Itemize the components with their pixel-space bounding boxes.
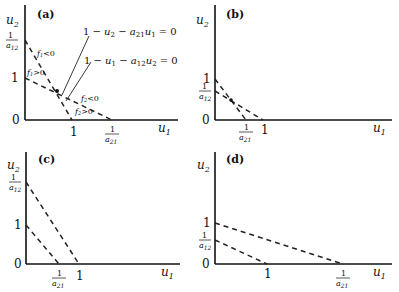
panel-c-xtick-1-over-a21: 1 a21 xyxy=(52,269,66,289)
panel-d: (d) u2 u1 1 1 a12 0 1 1 a21 xyxy=(197,152,392,289)
nullcline-diagram: (a) u2 u1 1 a12 1 0 1 1 a21 1 − u2 − a21… xyxy=(0,0,399,292)
panel-d-label: (d) xyxy=(226,153,244,166)
svg-text:1: 1 xyxy=(8,31,13,40)
panel-c-ytick-1: 1 xyxy=(14,218,22,232)
panel-d-ytick-1-over-a12: 1 a12 xyxy=(199,231,212,251)
panel-c-nullcline-u2 xyxy=(26,182,79,264)
svg-text:1: 1 xyxy=(202,231,207,240)
panel-a-f2-neg: f2<0 xyxy=(80,94,99,103)
panel-b-u1-label: u1 xyxy=(373,121,386,137)
panel-a-eq-nullcline-1: 1 − u1 − a12u2 = 0 xyxy=(84,55,178,68)
panel-d-xtick-1: 1 xyxy=(264,267,272,281)
panel-d-ytick-0: 0 xyxy=(202,257,210,271)
panel-c-ytick-1-over-a12: 1 a12 xyxy=(9,173,22,193)
panel-b-ytick-0: 0 xyxy=(202,113,210,127)
panel-a-u2-label: u2 xyxy=(6,13,19,29)
panel-a: (a) u2 u1 1 a12 1 0 1 1 a21 1 − u2 − a21… xyxy=(6,5,178,145)
panel-a-xtick-1: 1 xyxy=(70,125,78,139)
panel-c: (c) u2 u1 1 a12 1 0 1 a21 1 xyxy=(7,152,180,289)
panel-d-nullcline-u1 xyxy=(215,223,343,264)
panel-b-xtick-1: 1 xyxy=(261,123,269,137)
svg-text:a12: a12 xyxy=(199,241,212,251)
panel-a-f1-pos: f1>0 xyxy=(26,68,45,77)
svg-text:a21: a21 xyxy=(336,279,348,289)
panel-c-u1-label: u1 xyxy=(161,265,174,281)
svg-text:a12: a12 xyxy=(9,183,22,193)
panel-a-label: (a) xyxy=(37,8,55,21)
svg-text:1: 1 xyxy=(110,125,115,134)
panel-a-ytick-1: 1 xyxy=(11,71,19,85)
panel-a-equilibrium-point xyxy=(55,89,59,93)
svg-text:1: 1 xyxy=(244,123,249,132)
panel-a-ytick-1-over-a12: 1 a12 xyxy=(6,31,19,51)
svg-text:1: 1 xyxy=(202,82,207,91)
panel-b-u2-label: u2 xyxy=(196,13,209,29)
panel-c-label: (c) xyxy=(38,153,55,166)
panel-d-ytick-1: 1 xyxy=(203,216,211,230)
panel-b-equilibrium-point xyxy=(229,98,233,102)
panel-a-u1-label: u1 xyxy=(158,121,171,137)
svg-text:a12: a12 xyxy=(199,92,212,102)
panel-d-xtick-1-over-a21: 1 a21 xyxy=(336,269,350,289)
panel-c-nullcline-u1 xyxy=(26,225,59,264)
panel-a-eq-nullcline-2: 1 − u2 − a21u1 = 0 xyxy=(83,26,177,39)
panel-a-xtick-1-over-a21: 1 a21 xyxy=(105,125,119,145)
svg-text:a12: a12 xyxy=(6,41,19,51)
panel-d-u1-label: u1 xyxy=(373,265,386,281)
panel-a-f1-neg: f1<0 xyxy=(36,49,55,58)
panel-b-xtick-1-over-a21: 1 a21 xyxy=(239,123,253,143)
panel-d-u2-label: u2 xyxy=(197,158,210,174)
panel-b-nullcline-u1 xyxy=(215,91,263,120)
svg-text:a21: a21 xyxy=(105,135,117,145)
panel-d-nullcline-u2 xyxy=(215,240,267,264)
svg-text:1: 1 xyxy=(341,269,346,278)
panel-a-ytick-0: 0 xyxy=(12,113,20,127)
panel-c-u2-label: u2 xyxy=(7,158,20,174)
panel-a-f2-pos: f2>0 xyxy=(74,107,93,116)
svg-text:1: 1 xyxy=(57,269,62,278)
panel-b-label: (b) xyxy=(226,8,244,21)
svg-text:1: 1 xyxy=(11,173,16,182)
panel-b: (b) u2 u1 1 1 a12 0 1 a21 1 xyxy=(196,5,392,143)
svg-text:a21: a21 xyxy=(52,279,64,289)
svg-text:a21: a21 xyxy=(239,133,251,143)
panel-c-ytick-0: 0 xyxy=(14,257,22,271)
panel-c-xtick-1: 1 xyxy=(76,269,84,283)
